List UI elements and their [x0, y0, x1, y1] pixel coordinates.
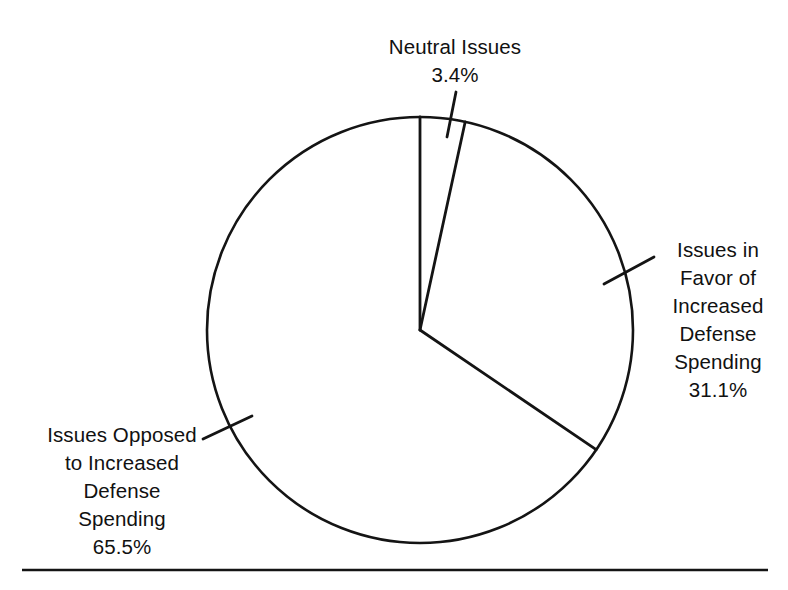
slice-label-opposed-line-1: Issues Opposed: [22, 421, 222, 449]
slice-label-neutral-value: 3.4%: [355, 61, 555, 89]
slice-label-opposed-line-3: Defense: [22, 477, 222, 505]
slice-label-favor: Issues in Favor of Increased Defense Spe…: [648, 236, 788, 404]
slice-label-favor-line-4: Defense: [648, 320, 788, 348]
slice-label-favor-line-1: Issues in: [648, 236, 788, 264]
slice-label-favor-line-3: Increased: [648, 292, 788, 320]
slice-label-opposed-line-2: to Increased: [22, 449, 222, 477]
slice-label-opposed-line-4: Spending: [22, 505, 222, 533]
slice-label-neutral-line-1: Neutral Issues: [355, 33, 555, 61]
slice-label-favor-line-5: Spending: [648, 348, 788, 376]
pie-chart-figure: Neutral Issues 3.4% Issues in Favor of I…: [0, 0, 788, 590]
slice-label-favor-value: 31.1%: [648, 376, 788, 404]
slice-label-opposed: Issues Opposed to Increased Defense Spen…: [22, 421, 222, 561]
slice-label-neutral: Neutral Issues 3.4%: [355, 33, 555, 89]
slice-label-opposed-value: 65.5%: [22, 533, 222, 561]
slice-label-favor-line-2: Favor of: [648, 264, 788, 292]
